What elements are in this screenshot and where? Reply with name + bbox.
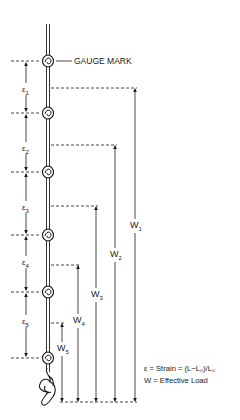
knot xyxy=(43,55,54,67)
knot xyxy=(43,166,54,178)
arrow-up-icon xyxy=(24,236,28,240)
arrow-up-icon xyxy=(24,114,28,118)
arrow-up-icon xyxy=(60,323,64,327)
arrow-down-icon xyxy=(24,167,28,171)
arrow-down-icon xyxy=(24,353,28,357)
knot xyxy=(43,107,54,119)
load-label: W4 xyxy=(73,315,86,327)
arrow-up-icon xyxy=(113,145,117,149)
arrow-down-icon xyxy=(76,398,80,402)
load-dimensions: W1W2W3W4W5 xyxy=(51,88,143,402)
hook-icon xyxy=(39,368,55,405)
load-label: W1 xyxy=(130,220,143,232)
arrow-up-icon xyxy=(76,265,80,269)
arrow-down-icon xyxy=(133,398,137,402)
knot xyxy=(43,286,54,298)
legend: ε = Strain = (L−L₀)/L₀ W = Effective Loa… xyxy=(144,364,215,385)
gauge-mark-label: GAUGE MARK xyxy=(74,56,132,66)
arrow-down-icon xyxy=(94,398,98,402)
arrow-up-icon xyxy=(24,293,28,297)
load-label: W3 xyxy=(91,289,104,301)
load-label: W5 xyxy=(57,343,70,355)
strain-dimensions: ε1ε2ε3ε4ε5 xyxy=(11,61,41,358)
arrow-down-icon xyxy=(60,398,64,402)
arrow-up-icon xyxy=(24,173,28,177)
arrow-down-icon xyxy=(113,398,117,402)
rope xyxy=(47,24,50,372)
rope-strain-diagram: ε1ε2ε3ε4ε5 W1W2W3W4W5 GAUGE MARK ε = Str… xyxy=(0,0,240,420)
arrow-down-icon xyxy=(24,108,28,112)
strain-label: ε3 xyxy=(22,203,30,214)
legend-load: W = Effective Load xyxy=(144,376,208,385)
strain-label: ε2 xyxy=(22,144,30,155)
strain-label: ε4 xyxy=(22,258,30,269)
arrow-down-icon xyxy=(24,230,28,234)
knots xyxy=(43,55,54,364)
load-label: W2 xyxy=(110,249,123,261)
arrow-up-icon xyxy=(24,62,28,66)
knot xyxy=(43,229,54,241)
arrow-up-icon xyxy=(94,206,98,210)
arrow-up-icon xyxy=(133,88,137,92)
strain-label: ε1 xyxy=(22,85,30,96)
knot xyxy=(43,352,54,364)
strain-label: ε5 xyxy=(22,317,30,328)
gauge-mark-callout: GAUGE MARK xyxy=(56,56,132,66)
legend-strain: ε = Strain = (L−L₀)/L₀ xyxy=(144,364,215,373)
arrow-down-icon xyxy=(24,287,28,291)
